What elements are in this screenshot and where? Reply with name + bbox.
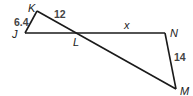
vertex-label-m: M	[180, 85, 190, 96]
triangle-diagram: K J L N M 6.4 12 x 14	[0, 0, 193, 96]
length-label-jk: 6.4	[14, 16, 29, 28]
length-label-nm: 14	[174, 51, 186, 63]
length-label-kl: 12	[54, 8, 66, 20]
length-label-ln: x	[123, 19, 130, 31]
vertex-label-k: K	[28, 2, 36, 14]
vertex-label-j: J	[11, 28, 18, 40]
vertex-label-n: N	[170, 27, 178, 39]
vertex-label-l: L	[73, 36, 79, 48]
segment-km	[37, 11, 176, 89]
